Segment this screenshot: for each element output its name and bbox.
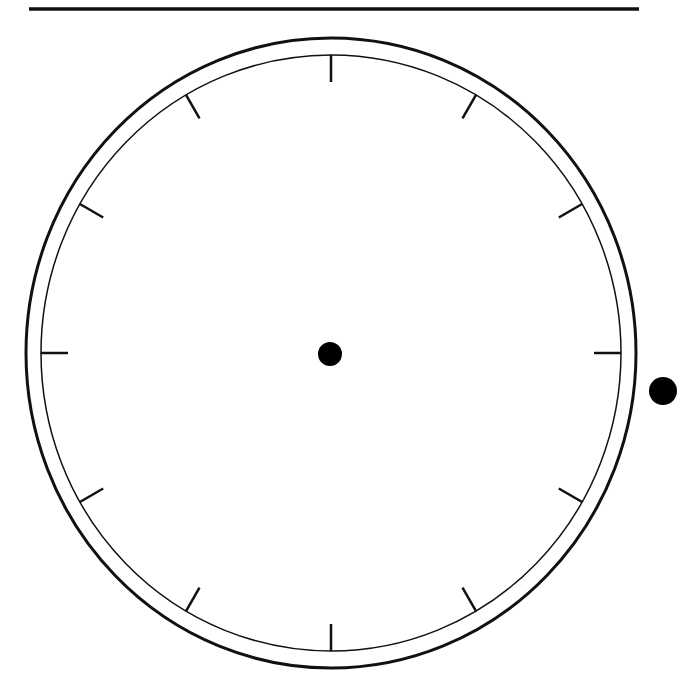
hour-tick-8 bbox=[80, 489, 103, 503]
hour-tick-5 bbox=[463, 588, 477, 611]
hour-tick-7 bbox=[186, 588, 200, 611]
clock-center-pivot bbox=[318, 342, 342, 366]
hour-tick-2 bbox=[559, 204, 582, 218]
hour-tick-10 bbox=[80, 204, 103, 218]
clock-diagram bbox=[0, 0, 698, 695]
clock-crown-knob bbox=[649, 377, 677, 405]
hour-tick-4 bbox=[559, 489, 582, 503]
hour-tick-11 bbox=[186, 95, 200, 118]
hour-tick-1 bbox=[463, 95, 477, 118]
